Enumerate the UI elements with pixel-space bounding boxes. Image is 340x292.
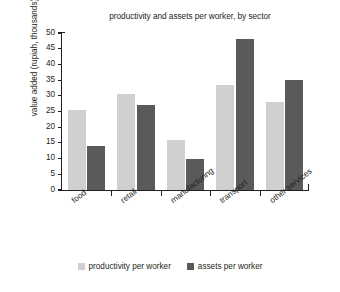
x-axis-tick-mark — [111, 190, 112, 196]
bar-food-productivity — [68, 110, 86, 190]
bar-food-assets — [87, 146, 105, 190]
y-axis-tick-mark — [58, 189, 62, 190]
bar-transport-productivity — [216, 85, 234, 190]
y-axis-tick-mark — [58, 48, 62, 49]
x-axis-tick-mark — [260, 190, 261, 196]
y-axis-tick-mark — [58, 127, 62, 128]
y-axis-tick-label: 10 — [35, 153, 55, 162]
y-axis-tick-mark — [58, 80, 62, 81]
y-axis-tick-label: 0 — [35, 185, 55, 194]
chart-legend: productivity per worker assets per worke… — [0, 262, 340, 271]
y-axis-tick-label: 5 — [35, 169, 55, 178]
y-axis-title: value added (rupiah, thousands) — [30, 0, 39, 138]
y-axis-tick-mark — [58, 174, 62, 175]
legend-swatch-icon-productivity — [78, 263, 85, 270]
bar-retail-productivity — [117, 94, 135, 190]
y-axis-tick-label: 20 — [35, 122, 55, 131]
legend-label-productivity: productivity per worker — [89, 262, 171, 271]
y-axis-tick-mark — [58, 32, 62, 33]
bar-retail-assets — [137, 105, 155, 190]
legend-item-productivity: productivity per worker — [78, 262, 171, 271]
bar-other-services-productivity — [266, 102, 284, 190]
y-axis-tick-mark — [58, 95, 62, 96]
legend-item-assets: assets per worker — [187, 262, 263, 271]
y-axis-tick-mark — [58, 158, 62, 159]
x-axis-tick-mark — [210, 190, 211, 196]
y-axis-tick-label: 40 — [35, 59, 55, 68]
bar-transport-assets — [236, 39, 254, 190]
y-axis-tick-label: 25 — [35, 106, 55, 115]
chart-title: productivity and assets per worker, by s… — [62, 11, 318, 21]
y-axis-tick-label: 50 — [35, 28, 55, 37]
y-axis-tick-label: 30 — [35, 90, 55, 99]
bar-manufacturing-productivity — [167, 140, 185, 190]
plot-area: 05101520253035404550 — [62, 33, 309, 190]
chart-figure: productivity and assets per worker, by s… — [0, 0, 340, 292]
y-axis-tick-mark — [58, 64, 62, 65]
legend-swatch-icon-assets — [187, 263, 194, 270]
legend-label-assets: assets per worker — [198, 262, 263, 271]
y-axis-tick-mark — [58, 142, 62, 143]
y-axis-tick-label: 15 — [35, 137, 55, 146]
y-axis-tick-label: 45 — [35, 43, 55, 52]
y-axis-tick-label: 35 — [35, 75, 55, 84]
y-axis-tick-mark — [58, 111, 62, 112]
x-axis-tick-mark — [161, 190, 162, 196]
